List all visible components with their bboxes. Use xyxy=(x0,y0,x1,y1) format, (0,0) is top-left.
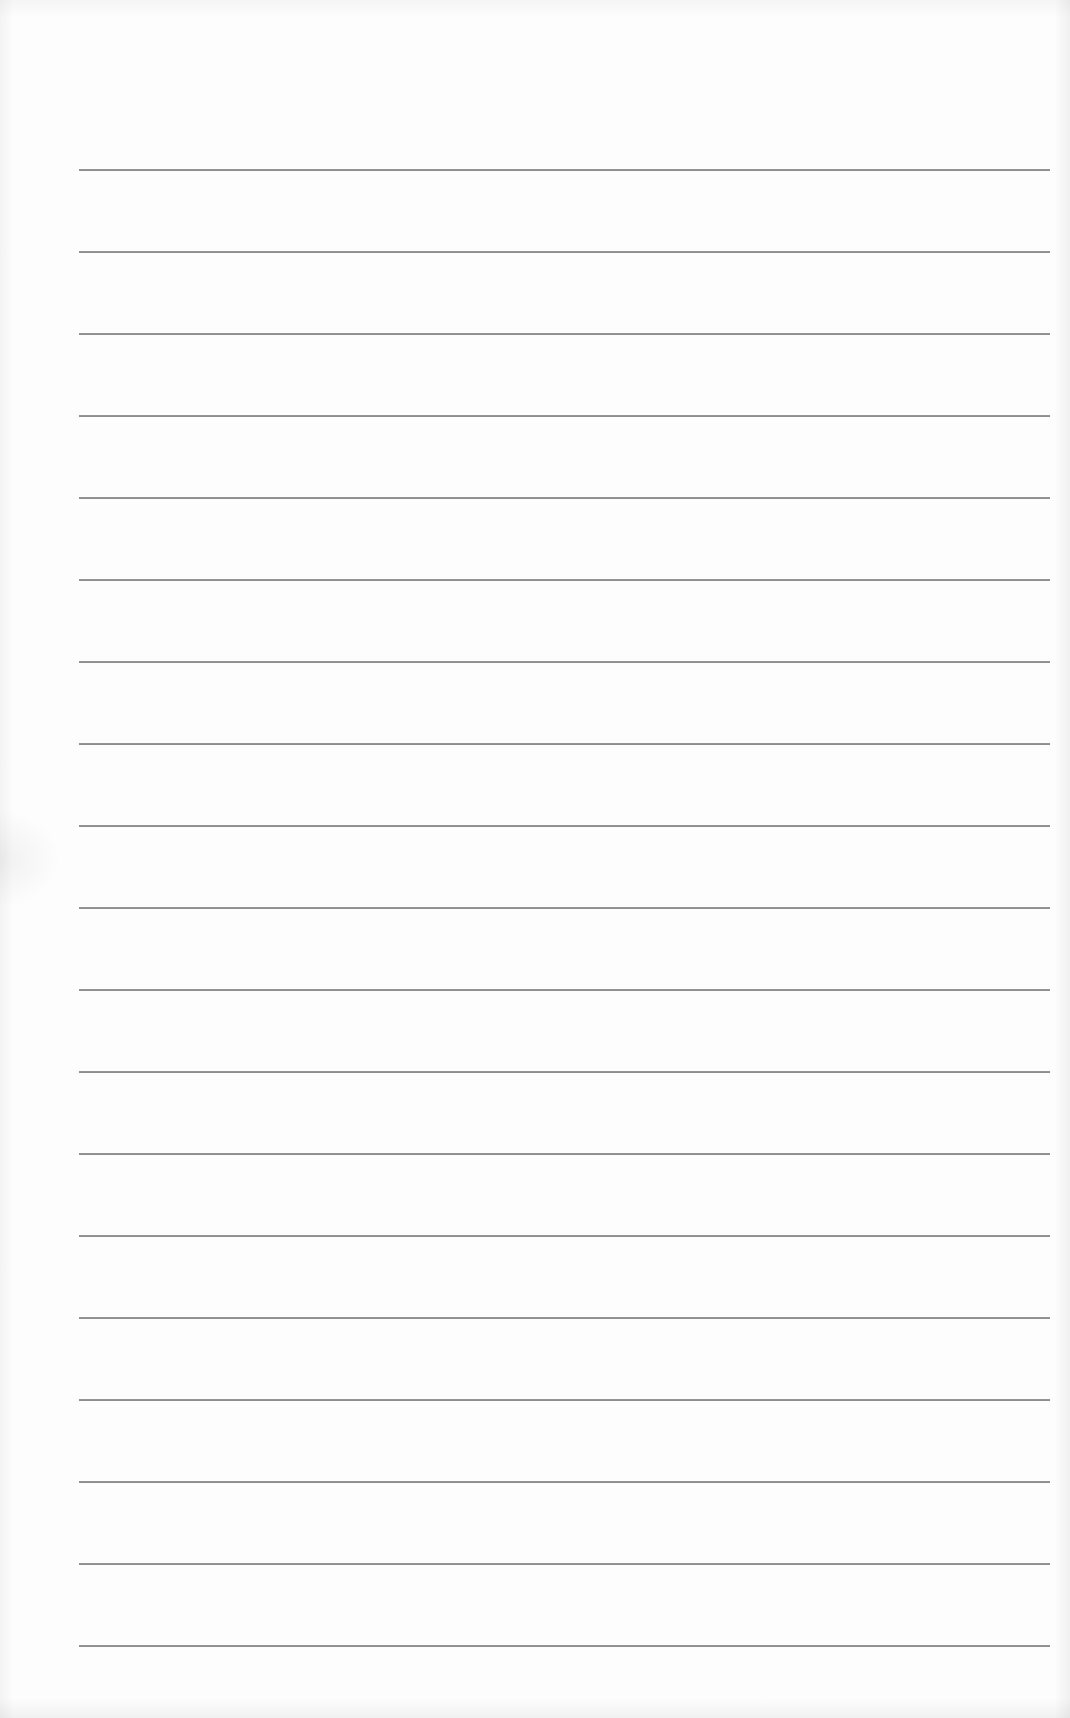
ruled-line xyxy=(79,1153,1050,1155)
ruled-line xyxy=(79,661,1050,663)
ruled-line xyxy=(79,1235,1050,1237)
ruled-line xyxy=(79,1563,1050,1565)
ruled-line xyxy=(79,1317,1050,1319)
ruled-line xyxy=(79,907,1050,909)
ruled-line xyxy=(79,1481,1050,1483)
ruled-line xyxy=(79,579,1050,581)
ruled-line xyxy=(79,825,1050,827)
ruled-line xyxy=(79,497,1050,499)
ruled-line xyxy=(79,415,1050,417)
lined-paper-sheet xyxy=(0,0,1070,1718)
ruled-line xyxy=(79,989,1050,991)
ruled-line xyxy=(79,169,1050,171)
ruled-line xyxy=(79,1645,1050,1647)
ruled-line xyxy=(79,1399,1050,1401)
ruled-line xyxy=(79,1071,1050,1073)
ruled-line xyxy=(79,743,1050,745)
ruled-line xyxy=(79,251,1050,253)
ruled-line xyxy=(79,333,1050,335)
